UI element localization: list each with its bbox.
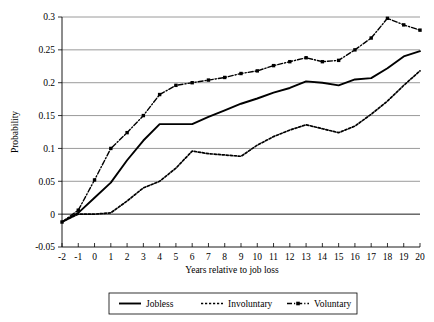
series-line-jobless [62,51,420,222]
x-tick-label: 18 [383,252,393,262]
x-tick-label: 6 [190,252,195,262]
series-marker-voluntary [158,93,161,96]
x-tick-label: 0 [92,252,97,262]
series-marker-voluntary [125,131,128,134]
series-marker-voluntary [353,48,356,51]
series-marker-voluntary [109,147,112,150]
series-marker-voluntary [369,36,372,39]
series-marker-voluntary [174,84,177,87]
x-tick-label: 14 [318,252,328,262]
y-tick-label: 0.1 [43,144,55,154]
series-marker-voluntary [93,178,96,181]
legend-marker-voluntary [296,302,300,306]
series-marker-voluntary [337,59,340,62]
series-marker-voluntary [60,220,63,223]
x-tick-label: 17 [366,252,376,262]
x-tick-label: 11 [269,252,278,262]
y-tick-label: 0.3 [43,12,55,22]
series-marker-voluntary [239,72,242,75]
y-tick-label: 0.15 [38,111,55,121]
x-tick-label: 10 [253,252,263,262]
series-line-voluntary [62,18,420,222]
x-tick-label: -1 [74,252,82,262]
x-axis-tick-marks [62,243,420,247]
y-tick-label: 0.25 [38,45,55,55]
x-tick-label: 20 [415,252,425,262]
series-marker-voluntary [142,114,145,117]
legend-label-involuntary: Involuntary [228,299,273,309]
y-axis-title: Probability [10,111,20,153]
x-tick-label: 9 [239,252,244,262]
x-axis-tick-labels: -2-101234567891011121314151617181920 [58,252,425,262]
y-tick-label: 0.05 [38,177,55,187]
series-marker-voluntary [272,64,275,67]
y-tick-label: -0.05 [35,242,55,252]
x-tick-label: 2 [125,252,130,262]
series-marker-voluntary [77,209,80,212]
x-tick-label: 4 [157,252,162,262]
data-series-group [60,17,421,224]
series-marker-voluntary [386,17,389,20]
series-marker-voluntary [223,76,226,79]
x-tick-label: 7 [206,252,211,262]
series-marker-voluntary [256,69,259,72]
legend-label-jobless: Jobless [146,299,174,309]
x-tick-label: 12 [285,252,295,262]
series-marker-voluntary [190,81,193,84]
x-axis-title: Years relative to job loss [185,265,279,275]
y-axis-tick-labels: -0.0500.050.10.150.20.250.3 [35,12,55,252]
legend-label-voluntary: Voluntary [314,299,352,309]
x-tick-label: 15 [334,252,344,262]
series-marker-voluntary [321,60,324,63]
x-tick-label: 13 [301,252,311,262]
x-tick-label: 3 [141,252,146,262]
x-tick-label: 19 [399,252,409,262]
series-marker-voluntary [288,60,291,63]
x-tick-label: 8 [222,252,227,262]
y-tick-label: 0 [50,210,55,220]
x-tick-label: -2 [58,252,66,262]
probability-line-chart: -0.0500.050.10.150.20.250.3 -2-101234567… [0,0,434,322]
gridlines [62,17,420,247]
series-marker-voluntary [207,78,210,81]
series-marker-voluntary [304,56,307,59]
chart-legend: JoblessInvoluntaryVoluntary [109,293,357,314]
x-tick-label: 5 [174,252,179,262]
x-tick-label: 16 [350,252,360,262]
chart-container: -0.0500.050.10.150.20.250.3 -2-101234567… [0,0,434,322]
series-line-involuntary [62,71,420,222]
series-marker-voluntary [418,28,421,31]
y-tick-label: 0.2 [43,78,55,88]
x-tick-label: 1 [108,252,113,262]
y-axis-tick-marks [58,17,62,247]
series-marker-voluntary [402,23,405,26]
